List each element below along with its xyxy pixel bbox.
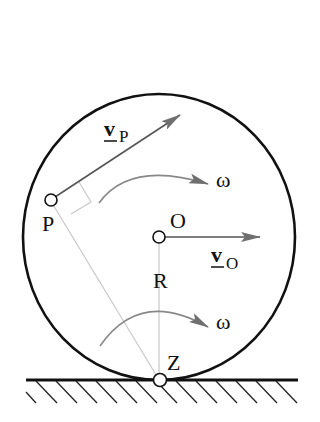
label-v-P-symbol: v	[104, 116, 115, 141]
omega-arc-lower	[100, 311, 208, 346]
label-Z: Z	[167, 350, 180, 375]
line-P-to-Z	[52, 203, 158, 378]
label-R: R	[153, 268, 168, 293]
point-P	[45, 194, 57, 206]
label-v-P-subscript: P	[119, 127, 128, 146]
point-O	[153, 231, 165, 243]
label-v-O-symbol: v	[211, 242, 222, 267]
label-v-P: v P	[104, 116, 128, 146]
label-v-O: v O	[211, 242, 238, 273]
label-P: P	[42, 211, 54, 236]
rolling-wheel-diagram: P O Z R v P v O ω ω	[0, 0, 320, 422]
omega-arc-upper	[99, 175, 208, 203]
label-v-O-subscript: O	[226, 254, 238, 273]
point-Z	[154, 374, 167, 387]
label-O: O	[170, 208, 186, 233]
vector-v-P	[55, 115, 180, 197]
right-angle-marker	[71, 182, 91, 214]
label-omega-lower: ω	[216, 309, 230, 334]
label-omega-upper: ω	[216, 167, 230, 192]
